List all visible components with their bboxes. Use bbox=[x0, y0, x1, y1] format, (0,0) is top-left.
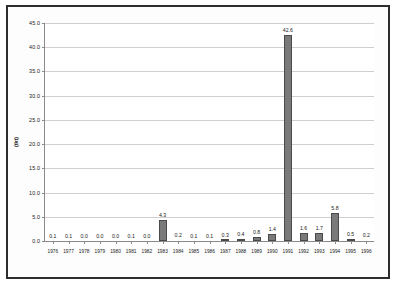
y-axis-tick-mark bbox=[42, 168, 45, 169]
bar[interactable] bbox=[268, 234, 276, 241]
x-axis-tick-label: 1987 bbox=[220, 249, 231, 254]
x-axis-tick-label: 1989 bbox=[251, 249, 262, 254]
bar-slot[interactable]: 0.11976 bbox=[45, 23, 61, 241]
bar[interactable] bbox=[315, 233, 323, 241]
bar-value-label: 0.1 bbox=[190, 233, 197, 239]
chart-canvas: (tkt) 0.119760.119770.019780.019790.0198… bbox=[8, 7, 388, 277]
x-axis-tick-mark bbox=[69, 241, 70, 244]
bar-slot[interactable]: 4.31983 bbox=[155, 23, 171, 241]
bar-slot[interactable]: 0.01979 bbox=[92, 23, 108, 241]
bar-slot[interactable]: 0.01978 bbox=[76, 23, 92, 241]
bar[interactable] bbox=[331, 213, 339, 241]
y-axis-tick-mark bbox=[42, 23, 45, 24]
y-axis-tick-label: 35.0 bbox=[12, 68, 40, 74]
plot-area: 0.119760.119770.019780.019790.019800.119… bbox=[44, 23, 374, 242]
bar[interactable] bbox=[159, 220, 167, 241]
y-axis-tick-mark bbox=[42, 241, 45, 242]
bar-slot[interactable]: 0.31987 bbox=[217, 23, 233, 241]
bar[interactable] bbox=[284, 35, 292, 241]
x-axis-tick-mark bbox=[351, 241, 352, 244]
x-axis-tick-mark bbox=[100, 241, 101, 244]
x-axis-tick-mark bbox=[225, 241, 226, 244]
bar-slot[interactable]: 1.71993 bbox=[311, 23, 327, 241]
x-axis-tick-label: 1980 bbox=[110, 249, 121, 254]
x-axis-tick-label: 1984 bbox=[173, 249, 184, 254]
bar-slot[interactable]: 0.11986 bbox=[202, 23, 218, 241]
bar-slot[interactable]: 0.81989 bbox=[249, 23, 265, 241]
y-axis-tick-mark bbox=[42, 96, 45, 97]
bar-value-label: 0.2 bbox=[363, 232, 370, 238]
bar-slot[interactable]: 0.01982 bbox=[139, 23, 155, 241]
bar-slot[interactable]: 0.11981 bbox=[123, 23, 139, 241]
bar-value-label: 0.8 bbox=[253, 229, 260, 235]
bar-value-label: 0.5 bbox=[347, 231, 354, 237]
bar-slot[interactable]: 42.61991 bbox=[280, 23, 296, 241]
x-axis-tick-mark bbox=[131, 241, 132, 244]
x-axis-tick-mark bbox=[257, 241, 258, 244]
bar-value-label: 1.7 bbox=[316, 225, 323, 231]
bar-series: 0.119760.119770.019780.019790.019800.119… bbox=[45, 23, 374, 241]
bar-slot[interactable]: 0.11977 bbox=[61, 23, 77, 241]
bar-slot[interactable]: 1.61992 bbox=[296, 23, 312, 241]
x-axis-tick-mark bbox=[163, 241, 164, 244]
y-axis-tick-label: 45.0 bbox=[12, 20, 40, 26]
x-axis-tick-mark bbox=[272, 241, 273, 244]
x-axis-tick-mark bbox=[241, 241, 242, 244]
bar-slot[interactable]: 5.81994 bbox=[327, 23, 343, 241]
bar-slot[interactable]: 0.51995 bbox=[343, 23, 359, 241]
x-axis-tick-label: 1995 bbox=[345, 249, 356, 254]
x-axis-tick-mark bbox=[147, 241, 148, 244]
x-axis-tick-label: 1985 bbox=[189, 249, 200, 254]
x-axis-tick-label: 1977 bbox=[63, 249, 74, 254]
bar-slot[interactable]: 0.11985 bbox=[186, 23, 202, 241]
x-axis-tick-label: 1981 bbox=[126, 249, 137, 254]
y-axis-tick-label: 15.0 bbox=[12, 165, 40, 171]
x-axis-tick-mark bbox=[319, 241, 320, 244]
bar-value-label: 1.4 bbox=[269, 226, 276, 232]
bar-value-label: 0.0 bbox=[96, 233, 103, 239]
x-axis-tick-label: 1983 bbox=[157, 249, 168, 254]
x-axis-tick-mark bbox=[53, 241, 54, 244]
y-axis-tick-mark bbox=[42, 120, 45, 121]
x-axis-tick-mark bbox=[335, 241, 336, 244]
chart-frame: (tkt) 0.119760.119770.019780.019790.0198… bbox=[6, 5, 390, 279]
x-axis-tick-mark bbox=[304, 241, 305, 244]
x-axis-tick-label: 1996 bbox=[361, 249, 372, 254]
x-axis-tick-label: 1993 bbox=[314, 249, 325, 254]
x-axis-tick-label: 1976 bbox=[47, 249, 58, 254]
bar-value-label: 0.0 bbox=[143, 233, 150, 239]
x-axis-tick-mark bbox=[116, 241, 117, 244]
bar-value-label: 0.0 bbox=[81, 233, 88, 239]
y-axis-tick-label: 40.0 bbox=[12, 44, 40, 50]
bar-slot[interactable]: 1.41990 bbox=[264, 23, 280, 241]
x-axis-tick-mark bbox=[210, 241, 211, 244]
bar-slot[interactable]: 0.01980 bbox=[108, 23, 124, 241]
bar-value-label: 1.6 bbox=[300, 225, 307, 231]
y-axis-tick-label: 30.0 bbox=[12, 93, 40, 99]
y-axis-tick-label: 10.0 bbox=[12, 190, 40, 196]
x-axis-tick-label: 1990 bbox=[267, 249, 278, 254]
bar-value-label: 0.4 bbox=[237, 231, 244, 237]
y-axis-tick-label: 20.0 bbox=[12, 141, 40, 147]
x-axis-tick-label: 1978 bbox=[79, 249, 90, 254]
bar[interactable] bbox=[300, 233, 308, 241]
x-axis-tick-mark bbox=[366, 241, 367, 244]
y-axis-tick-mark bbox=[42, 144, 45, 145]
bar-value-label: 4.3 bbox=[159, 212, 166, 218]
y-axis-tick-label: 25.0 bbox=[12, 117, 40, 123]
bar-value-label: 0.1 bbox=[206, 233, 213, 239]
bar-value-label: 0.1 bbox=[65, 233, 72, 239]
y-axis-tick-label: 5.0 bbox=[12, 214, 40, 220]
x-axis-tick-mark bbox=[84, 241, 85, 244]
bar-value-label: 0.1 bbox=[49, 233, 56, 239]
x-axis-tick-label: 1986 bbox=[204, 249, 215, 254]
bar-slot[interactable]: 0.21996 bbox=[358, 23, 374, 241]
bar-value-label: 5.8 bbox=[331, 205, 338, 211]
x-axis-tick-label: 1988 bbox=[236, 249, 247, 254]
bar-value-label: 0.1 bbox=[128, 233, 135, 239]
bar-slot[interactable]: 0.41988 bbox=[233, 23, 249, 241]
bar-value-label: 42.6 bbox=[283, 27, 293, 33]
y-axis-tick-mark bbox=[42, 193, 45, 194]
bar-slot[interactable]: 0.21984 bbox=[170, 23, 186, 241]
y-axis-tick-mark bbox=[42, 47, 45, 48]
